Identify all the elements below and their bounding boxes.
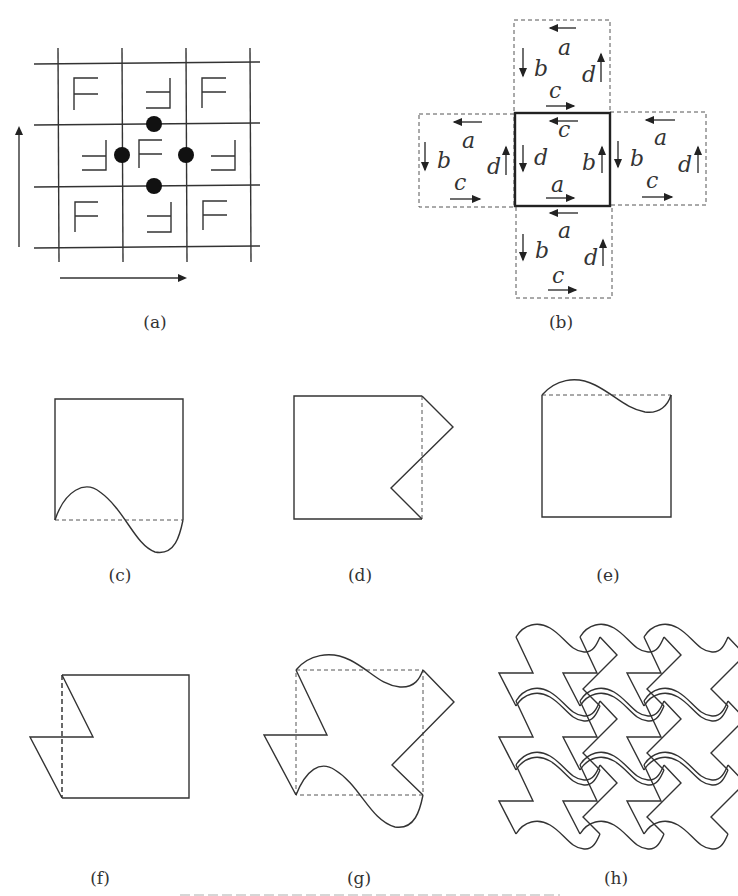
svg-text:b: b: [630, 146, 644, 171]
edge-correspondence-diagram: a b d c c d b a a b d c a b d c a: [410, 0, 720, 310]
tile-right-zigzag: [270, 380, 490, 580]
figure-caption-cropped: [180, 886, 560, 896]
panel-c-label: (c): [90, 565, 150, 585]
right-arrow-icon: [178, 274, 187, 282]
svg-text:c: c: [558, 117, 570, 142]
panel-g-label: (g): [329, 868, 389, 888]
panel-d-label: (d): [330, 565, 390, 585]
panel-e-label: (e): [578, 565, 638, 585]
panel-h-label: (h): [586, 868, 646, 888]
combined-tile: [250, 640, 480, 870]
svg-text:b: b: [534, 56, 548, 81]
tile-left-zigzag: [10, 650, 240, 870]
svg-text:c: c: [646, 168, 658, 193]
svg-text:b: b: [437, 148, 451, 173]
panel-f-label: (f): [70, 868, 130, 888]
svg-text:d: d: [534, 145, 548, 170]
grid-of-f-glyphs: [0, 40, 260, 300]
svg-text:c: c: [552, 263, 564, 288]
rotation-center-dot: [146, 116, 162, 132]
tile-bottom-curve: [30, 380, 250, 580]
rotation-center-dot: [114, 147, 130, 163]
tile-top-curve: [500, 370, 720, 580]
svg-text:a: a: [462, 128, 475, 153]
tiling-pattern: [480, 640, 738, 865]
svg-text:a: a: [551, 172, 564, 197]
svg-text:c: c: [454, 170, 466, 195]
panel-b-label: (b): [531, 312, 591, 332]
panel-d: [270, 380, 490, 580]
svg-text:d: d: [678, 152, 692, 177]
svg-text:a: a: [558, 218, 571, 243]
svg-text:b: b: [582, 150, 596, 175]
svg-text:d: d: [582, 62, 596, 87]
panel-c: [30, 380, 250, 580]
svg-text:d: d: [487, 154, 501, 179]
panel-a-label: (a): [125, 312, 185, 332]
svg-text:a: a: [558, 35, 571, 60]
rotation-center-dot: [146, 178, 162, 194]
panel-h: [480, 640, 738, 865]
panel-f: [10, 650, 240, 870]
panel-b: a b d c c d b a a b d c a b d c a: [410, 0, 720, 310]
panel-e: [500, 370, 720, 580]
svg-text:c: c: [549, 78, 561, 103]
svg-text:b: b: [535, 238, 549, 263]
rotation-center-dot: [178, 147, 194, 163]
panel-g: [250, 640, 480, 870]
svg-text:a: a: [654, 125, 667, 150]
svg-text:d: d: [584, 245, 598, 270]
up-arrow-icon: [15, 126, 23, 135]
panel-a: [0, 40, 260, 300]
